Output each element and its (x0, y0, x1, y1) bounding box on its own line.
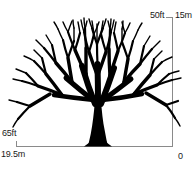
twig-tip (16, 69, 26, 73)
branch-tertiary (75, 33, 80, 50)
twig-tip (133, 30, 138, 41)
twig-tip (73, 20, 74, 28)
twig-tip (78, 22, 80, 33)
twig-tip (13, 119, 18, 127)
branch-secondary (109, 49, 110, 76)
branch-tertiary (63, 40, 68, 58)
branch-secondary (30, 94, 50, 106)
branch-tertiary (114, 33, 118, 51)
branch-tertiary (18, 106, 30, 119)
branch-tertiary (109, 29, 110, 49)
twig-tip (172, 78, 181, 80)
twig-tip (138, 23, 142, 30)
twig-tip (58, 29, 63, 40)
twig-tip (34, 50, 42, 58)
twig-tip (152, 41, 160, 49)
branch-tertiary (166, 101, 178, 105)
twig-tip (103, 19, 106, 28)
branch-tertiary (89, 34, 94, 52)
spread-label-meters: 19.5m (1, 149, 25, 159)
twig-tip (63, 22, 68, 32)
twig-tip (46, 35, 52, 45)
twig-tip (144, 36, 150, 46)
origin-label: 0 (178, 151, 183, 161)
tree-scale-diagram: 50ft 15m 65ft 19.5m 0 (0, 0, 194, 171)
twig-tip (110, 19, 111, 29)
twig-tip (169, 71, 179, 74)
twig-tip (154, 51, 162, 59)
branch-tertiary (166, 105, 175, 118)
twig-tip (125, 23, 130, 33)
branch-tertiary (17, 102, 30, 106)
trunk-base-flare (84, 139, 112, 147)
twig-tip (9, 100, 17, 102)
twig-tip (13, 79, 22, 81)
twig-tip (36, 40, 44, 48)
twig-tip (24, 56, 34, 61)
branch-tertiary (122, 42, 128, 59)
twig-tip (162, 57, 172, 62)
twig-tip (68, 21, 72, 32)
branch-tertiary (97, 44, 98, 64)
branch-secondary (146, 93, 166, 105)
twig-tip (89, 19, 92, 28)
branch-tertiary (101, 34, 106, 52)
twig-tip (84, 18, 85, 28)
height-label-meters: 15m (175, 10, 192, 20)
tree-silhouette (0, 0, 194, 171)
twig-tip (54, 22, 58, 29)
branch-tertiary (68, 41, 74, 58)
twig-tip (114, 22, 116, 33)
spread-label-feet: 65ft (2, 128, 16, 138)
branch-tertiary (128, 41, 133, 59)
twig-tip (175, 118, 180, 126)
height-label-feet: 50ft (150, 10, 164, 20)
branch-tertiary (85, 28, 86, 48)
